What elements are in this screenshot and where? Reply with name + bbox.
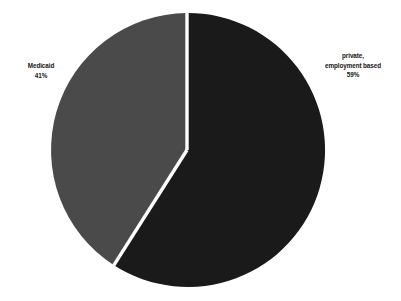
- pie-label-private-employment-based: private, employment based 59%: [313, 51, 394, 80]
- pie-label-medicaid-name: Medicaid: [7, 61, 76, 71]
- pie-label-private-name-line2: employment based: [313, 61, 394, 71]
- pie-chart-graphic: [0, 0, 401, 301]
- pie-label-private-value: 59%: [313, 70, 394, 80]
- pie-chart-figure: Medicaid 41% private, employment based 5…: [0, 0, 401, 301]
- pie-label-medicaid: Medicaid 41%: [7, 61, 76, 80]
- pie-label-medicaid-value: 41%: [7, 71, 76, 81]
- pie-label-private-name-line1: private,: [313, 51, 394, 61]
